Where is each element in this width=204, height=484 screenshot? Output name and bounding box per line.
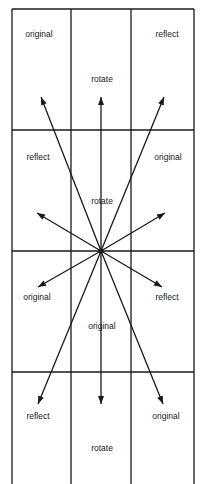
arrowhead-icon (158, 97, 164, 106)
arrowhead-icon (38, 280, 46, 287)
label-rotate-row2-center: rotate (91, 196, 113, 206)
arrowhead-icon (98, 396, 104, 404)
arrow-line (101, 97, 164, 251)
arrow-line (37, 213, 101, 251)
label-original-row3-left: original (23, 292, 50, 302)
label-reflect-top-right: reflect (155, 29, 178, 39)
arrowhead-icon (98, 97, 104, 105)
arrow-line (101, 213, 165, 251)
arrow-line (38, 251, 101, 287)
arrowhead-icon (41, 97, 47, 106)
label-original-row3-center: original (88, 321, 115, 331)
label-original-top-left: original (25, 29, 52, 39)
arrowhead-icon (157, 395, 163, 404)
label-rotate-top-center: rotate (91, 74, 113, 84)
arrowhead-icon (38, 395, 44, 404)
arrowhead-icon (154, 280, 162, 287)
label-reflect-row3-right: reflect (155, 292, 178, 302)
label-reflect-bottom-left: reflect (26, 411, 49, 421)
label-original-row2-right: original (154, 152, 181, 162)
label-rotate-bottom-center: rotate (91, 443, 113, 453)
center-point (99, 249, 104, 254)
arrowhead-icon (37, 213, 45, 220)
label-original-bottom-right: original (152, 411, 179, 421)
label-reflect-row2-left: reflect (26, 152, 49, 162)
arrowhead-icon (157, 213, 165, 220)
